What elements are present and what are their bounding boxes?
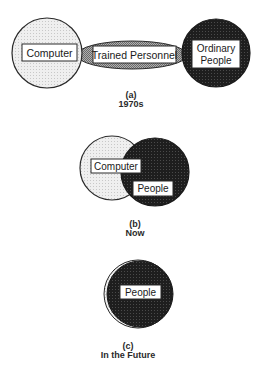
panel-a-caption: 1970s: [118, 99, 143, 109]
ordinary-people-label-line1: Ordinary: [197, 43, 235, 54]
people-label: People: [137, 183, 169, 194]
panel-b-now: Computer People (b) Now: [80, 136, 189, 238]
ordinary-people-label-line2: People: [200, 55, 232, 66]
panel-c-future: People (c) In the Future: [101, 260, 173, 360]
panel-b-caption: Now: [126, 228, 146, 238]
panel-a-1970s: Computer Trained Personnel Ordinary Peop…: [12, 18, 250, 109]
people-label: People: [125, 287, 157, 298]
trained-personnel-label: Trained Personnel: [92, 49, 177, 61]
computer-label: Computer: [94, 161, 139, 172]
diagram-canvas: Computer Trained Personnel Ordinary Peop…: [0, 0, 263, 376]
computer-label: Computer: [26, 47, 73, 59]
panel-c-caption: In the Future: [101, 350, 156, 360]
